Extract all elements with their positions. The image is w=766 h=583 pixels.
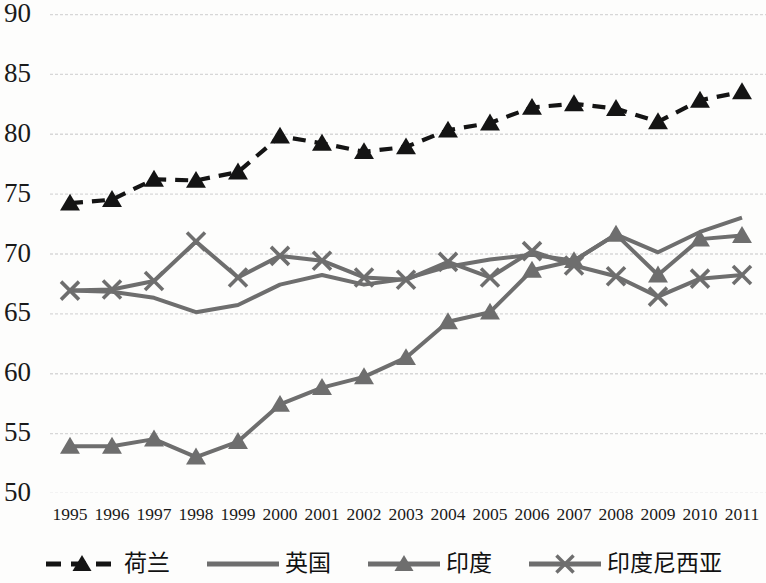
legend-label-indonesia: 印度尼西亚 xyxy=(607,552,722,576)
data-point xyxy=(732,82,752,99)
data-point xyxy=(606,225,626,242)
x-axis-tick-1998: 1998 xyxy=(179,505,214,523)
data-point xyxy=(354,142,374,159)
y-axis-tick-90: 90 xyxy=(4,0,48,27)
series-netherlands xyxy=(60,82,752,210)
series-india xyxy=(60,225,752,465)
x-axis-tick-1995: 1995 xyxy=(53,505,88,523)
data-point xyxy=(606,99,626,116)
x-axis-tick-2001: 2001 xyxy=(305,505,340,523)
x-axis-tick-1996: 1996 xyxy=(95,505,130,523)
x-axis-tick-2010: 2010 xyxy=(683,505,718,523)
series-line xyxy=(70,242,742,297)
plot-area xyxy=(50,14,766,493)
plot-svg xyxy=(50,14,766,493)
data-point xyxy=(187,233,205,251)
legend-label-netherlands: 荷兰 xyxy=(124,552,170,576)
legend-swatch-india xyxy=(367,553,441,575)
data-point xyxy=(523,242,541,260)
data-point xyxy=(229,268,247,286)
y-axis-tick-70: 70 xyxy=(4,240,48,267)
x-axis-tick-2003: 2003 xyxy=(389,505,424,523)
x-axis-tick-1997: 1997 xyxy=(137,505,172,523)
data-point xyxy=(649,288,667,306)
y-axis-tick-55: 55 xyxy=(4,419,48,446)
y-axis-tick-85: 85 xyxy=(4,60,48,87)
series-indonesia xyxy=(61,233,751,306)
legend-swatch-netherlands xyxy=(45,553,119,575)
y-axis-tick-80: 80 xyxy=(4,120,48,147)
y-axis-tick-60: 60 xyxy=(4,359,48,386)
x-axis-tick-2006: 2006 xyxy=(515,505,550,523)
y-axis-tick-65: 65 xyxy=(4,299,48,326)
legend-item-indonesia[interactable]: 印度尼西亚 xyxy=(528,552,722,576)
x-axis-tick-2002: 2002 xyxy=(347,505,382,523)
legend-swatch-indonesia xyxy=(528,553,602,575)
x-axis-tick-2004: 2004 xyxy=(431,505,466,523)
legend-item-india[interactable]: 印度 xyxy=(367,552,492,576)
line-chart: 908580757065605550 199519961997199819992… xyxy=(0,0,766,583)
data-point xyxy=(481,268,499,286)
data-point xyxy=(144,430,164,447)
y-axis-tick-75: 75 xyxy=(4,180,48,207)
x-axis-tick-2005: 2005 xyxy=(473,505,508,523)
x-axis-tick-2008: 2008 xyxy=(599,505,634,523)
x-axis-tick-2011: 2011 xyxy=(725,505,759,523)
data-point xyxy=(648,112,668,129)
legend-label-india: 印度 xyxy=(446,552,492,576)
legend-label-united-kingdom: 英国 xyxy=(285,552,331,576)
y-axis-tick-50: 50 xyxy=(4,479,48,506)
legend-swatch-united-kingdom xyxy=(206,553,280,575)
legend-item-united-kingdom[interactable]: 英国 xyxy=(206,552,331,576)
chart-legend: 荷兰英国印度印度尼西亚 xyxy=(0,545,766,583)
x-axis-tick-1999: 1999 xyxy=(221,505,256,523)
data-point xyxy=(270,127,290,144)
x-axis-tick-2000: 2000 xyxy=(263,505,298,523)
legend-item-netherlands[interactable]: 荷兰 xyxy=(45,552,170,576)
x-axis-tick-2009: 2009 xyxy=(641,505,676,523)
x-axis-tick-2007: 2007 xyxy=(557,505,592,523)
data-point xyxy=(102,190,122,207)
